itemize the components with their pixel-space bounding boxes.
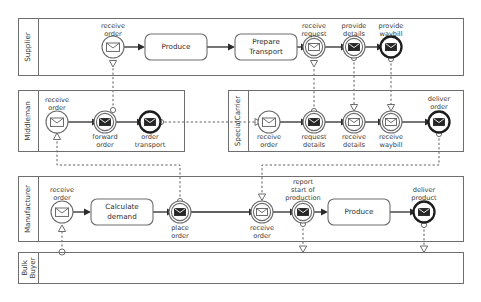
- message-flow-order-transport-to-carrier: [158, 119, 261, 126]
- message-flow-provide-details-to-carrier: [350, 55, 357, 111]
- event-label-supplier-provide-details-line1: provide: [342, 22, 367, 30]
- bpmn-diagram-canvas: Supplier Middleman SpecialCarrier Manufa…: [0, 0, 481, 302]
- envelope-open-icon: [386, 119, 397, 126]
- event-supplier-provide-details[interactable]: provide details: [342, 22, 367, 58]
- event-label-manufacturer-receive-order-line1: receive: [50, 186, 74, 194]
- event-carrier-receive-order[interactable]: receive order: [257, 111, 281, 149]
- message-flow-provide-waybill-to-carrier: [387, 56, 394, 111]
- pool-bulkbuyer[interactable]: Bulk Buyer: [19, 253, 464, 284]
- event-carrier-deliver-order[interactable]: deliver order: [428, 95, 451, 133]
- event-supplier-provide-waybill[interactable]: provide waybill: [379, 22, 404, 58]
- envelope-filled-icon: [100, 119, 111, 126]
- event-label-manufacturer-place-order-line2: order: [171, 232, 189, 240]
- envelope-open-icon: [56, 208, 69, 216]
- sequence-flow-mf-place-order-to-receive-order: [191, 209, 256, 216]
- event-label-supplier-receive-request-line1: receive: [302, 22, 326, 30]
- event-label-supplier-receive-request-line2: request: [301, 30, 326, 38]
- task-label-produce-supplier: Produce: [162, 42, 191, 51]
- event-label-middleman-forward-order-line1: forward: [92, 133, 117, 141]
- task-produce-supplier[interactable]: Produce: [145, 34, 207, 60]
- envelope-open-icon: [257, 209, 268, 216]
- event-label-deliver-product-line2: product: [411, 194, 437, 202]
- task-label-prepare-transport-line1: Prepare: [252, 37, 280, 46]
- event-manufacturer-receive-order-2[interactable]: receive order: [250, 201, 274, 240]
- event-label-middleman-receive-order-line2: order: [48, 104, 66, 112]
- event-carrier-request-details[interactable]: request details: [301, 111, 326, 149]
- event-manufacturer-report-start-production[interactable]: report start of production: [285, 178, 320, 223]
- pool-label-middleman: Middleman: [23, 101, 32, 141]
- event-carrier-receive-details[interactable]: receive details: [342, 111, 366, 149]
- task-calculate-demand[interactable]: Calculate demand: [91, 199, 153, 225]
- pool-label-manufacturer: Manufacturer: [23, 185, 32, 233]
- pool-label-supplier: Supplier: [23, 32, 32, 62]
- task-label-calculate-demand-line1: Calculate: [105, 202, 139, 211]
- task-prepare-transport[interactable]: Prepare Transport: [235, 34, 297, 60]
- sequence-flow-sc-waybill-to-deliver: [402, 119, 432, 126]
- event-label-carrier-deliver-order-line1: deliver: [428, 95, 451, 103]
- envelope-filled-icon: [434, 119, 445, 126]
- envelope-filled-icon: [145, 119, 156, 126]
- event-label-carrier-receive-order-line2: order: [260, 141, 278, 149]
- task-label-prepare-transport-line2: Transport: [248, 47, 283, 56]
- message-flow-request-details-to-supplier: [310, 61, 317, 114]
- pool-manufacturer[interactable]: Manufacturer: [19, 177, 464, 242]
- envelope-open-icon: [263, 118, 276, 126]
- pool-label-specialcarrier: SpecialCarrier: [233, 96, 242, 147]
- event-label-manufacturer-place-order-line1: place: [171, 224, 189, 232]
- event-label-supplier-receive-order-line1: receive: [101, 22, 125, 30]
- event-manufacturer-place-order[interactable]: place order: [169, 201, 191, 240]
- event-label-middleman-order-transport-line1: order: [141, 133, 159, 141]
- envelope-open-icon: [51, 118, 64, 126]
- message-flow-report-production-to-bulkbuyer: [299, 221, 306, 252]
- envelope-filled-icon: [298, 209, 309, 216]
- sequence-flow-receive-order-to-produce: [124, 44, 145, 51]
- event-label-carrier-request-details-line2: details: [303, 141, 326, 149]
- envelope-filled-icon: [309, 119, 320, 126]
- event-middleman-order-transport[interactable]: order transport: [135, 112, 166, 149]
- event-manufacturer-deliver-product[interactable]: deliver product: [411, 186, 437, 223]
- task-label-calculate-demand-line2: demand: [107, 212, 137, 221]
- event-label-carrier-request-details-line1: request: [301, 133, 326, 141]
- event-middleman-forward-order[interactable]: forward order: [92, 111, 117, 149]
- event-label-middleman-forward-order-line2: order: [96, 141, 114, 149]
- event-middleman-receive-order[interactable]: receive order: [45, 96, 69, 133]
- envelope-filled-icon: [349, 44, 360, 51]
- envelope-filled-icon: [386, 44, 397, 51]
- event-label-deliver-product-line1: deliver: [413, 186, 436, 194]
- event-label-carrier-receive-details-line2: details: [343, 141, 366, 149]
- sequence-flow-mf-report-to-produce: [314, 209, 328, 216]
- envelope-open-icon: [309, 44, 320, 51]
- event-label-supplier-provide-waybill-line1: provide: [379, 22, 404, 30]
- event-label-report-production-line3: production: [285, 194, 320, 202]
- event-label-carrier-receive-order-line1: receive: [257, 133, 281, 141]
- task-label-produce-manufacturer: Produce: [345, 207, 374, 216]
- message-flow-bulkbuyer-to-manufacturer: [58, 225, 65, 255]
- event-label-supplier-provide-waybill-line2: waybill: [379, 30, 402, 38]
- envelope-open-icon: [349, 119, 360, 126]
- sequence-flow-produce-to-prepare-transport: [207, 44, 235, 51]
- task-produce-manufacturer[interactable]: Produce: [328, 199, 390, 225]
- sequence-flow-layer: [68, 44, 432, 216]
- event-label-supplier-provide-details-line2: details: [343, 30, 366, 38]
- pool-label-bulkbuyer-line2: Buyer: [28, 257, 37, 278]
- event-label-supplier-receive-order-line2: order: [104, 30, 122, 38]
- event-label-report-production-line2: start of: [291, 186, 315, 194]
- event-label-carrier-receive-waybill-line1: receive: [379, 133, 403, 141]
- event-label-middleman-order-transport-line2: transport: [135, 141, 166, 149]
- event-label-manufacturer-receive-order-2-line2: order: [253, 232, 271, 240]
- event-carrier-receive-waybill[interactable]: receive waybill: [379, 111, 403, 149]
- sequence-flow-mf-receive-to-calculate: [73, 209, 91, 216]
- event-label-middleman-receive-order-line1: receive: [45, 96, 69, 104]
- event-supplier-receive-order[interactable]: receive order: [101, 22, 125, 58]
- event-label-report-production-line1: report: [293, 178, 314, 186]
- message-flow-forward-order-to-supplier: [109, 61, 116, 113]
- event-label-manufacturer-receive-order-line2: order: [53, 194, 71, 202]
- event-label-carrier-receive-waybill-line2: waybill: [379, 141, 402, 149]
- envelope-open-icon: [107, 43, 120, 51]
- event-label-carrier-receive-details-line1: receive: [342, 133, 366, 141]
- envelope-filled-icon: [419, 209, 430, 216]
- envelope-filled-icon: [175, 209, 186, 216]
- event-supplier-receive-request[interactable]: receive request: [301, 22, 326, 58]
- event-manufacturer-receive-order[interactable]: receive order: [50, 186, 74, 223]
- event-label-carrier-deliver-order-line2: order: [430, 103, 448, 111]
